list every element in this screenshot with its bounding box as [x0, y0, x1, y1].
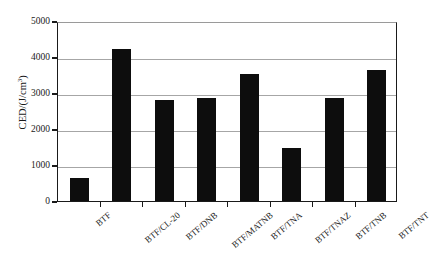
y-axis-tick-label: 5000 [8, 16, 50, 26]
y-axis-tick-label: 0 [8, 196, 50, 206]
bar [325, 98, 344, 201]
x-axis-tick [270, 202, 271, 207]
x-axis-tick [355, 202, 356, 207]
x-axis-tick [185, 202, 186, 207]
bar [112, 49, 131, 201]
y-axis-tick-label: 4000 [8, 52, 50, 62]
y-axis-tick-label: 2000 [8, 124, 50, 134]
x-axis-tick [227, 202, 228, 207]
x-axis-tick-label: BTF/MATNB [230, 210, 275, 250]
x-axis-tick-label: BTF [94, 210, 113, 228]
gridline [58, 167, 396, 168]
bar [70, 178, 89, 201]
x-axis-tick-label: BTF/DNB [184, 210, 220, 242]
gridline [58, 59, 396, 60]
y-axis-tick-labels: 500040003000200010000 [0, 0, 50, 220]
bar [197, 98, 216, 201]
bar [155, 100, 174, 201]
x-axis-tick [100, 202, 101, 207]
bar [240, 74, 259, 201]
gridline [58, 131, 396, 132]
y-axis-tick-label: 3000 [8, 88, 50, 98]
bar [367, 70, 386, 201]
x-axis-tick [312, 202, 313, 207]
x-axis-tick-label: BTF/CL-20 [143, 210, 182, 245]
bar [282, 148, 301, 201]
plot-area [57, 22, 397, 202]
x-axis-tick [142, 202, 143, 207]
x-axis-tick-label: BTF/TNT [396, 210, 430, 241]
y-axis-tick-label: 1000 [8, 160, 50, 170]
x-axis-tick-label: BTF/TNB [354, 210, 389, 241]
x-axis-tick-label: BTF/TNAZ [313, 210, 352, 245]
gridline [58, 95, 396, 96]
x-axis-tick-label: BTF/TNA [269, 210, 304, 242]
